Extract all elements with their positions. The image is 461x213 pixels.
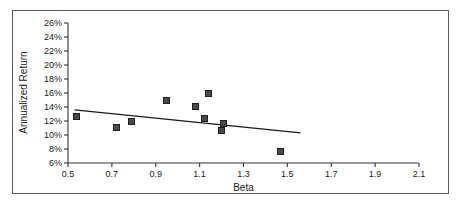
- y-tick-label: 20%: [24, 60, 62, 70]
- y-tick-label: 18%: [24, 74, 62, 84]
- y-axis-title: Annualized Return: [18, 38, 29, 148]
- x-tick-label: 2.1: [403, 169, 435, 179]
- data-point-marker: [201, 115, 208, 122]
- x-tick-label: 1.5: [271, 169, 303, 179]
- data-point-marker: [277, 148, 284, 155]
- x-tick-label: 1.1: [184, 169, 216, 179]
- y-tick-label: 12%: [24, 116, 62, 126]
- x-axis-title: Beta: [13, 182, 461, 193]
- y-tick-label: 6%: [24, 158, 62, 168]
- x-tick-label: 0.5: [52, 169, 84, 179]
- data-point-marker: [73, 113, 80, 120]
- data-point-marker: [205, 90, 212, 97]
- trendline: [75, 110, 301, 133]
- x-tick-label: 1.3: [228, 169, 260, 179]
- y-tick-label: 8%: [24, 144, 62, 154]
- data-point-marker: [128, 118, 135, 125]
- y-tick-label: 26%: [24, 18, 62, 28]
- data-point-marker: [163, 97, 170, 104]
- plot-area: [13, 11, 448, 193]
- x-tick-label: 0.7: [96, 169, 128, 179]
- data-point-marker: [192, 103, 199, 110]
- y-tick-label: 24%: [24, 32, 62, 42]
- y-tick-label: 14%: [24, 102, 62, 112]
- chart-frame: 6%8%10%12%14%16%18%20%22%24%26% 0.50.70.…: [12, 10, 449, 194]
- x-tick-label: 0.9: [140, 169, 172, 179]
- data-point-marker: [113, 124, 120, 131]
- chart-figure: 6%8%10%12%14%16%18%20%22%24%26% 0.50.70.…: [0, 0, 461, 213]
- data-point-marker: [218, 127, 225, 134]
- y-tick-label: 16%: [24, 88, 62, 98]
- axes: [64, 23, 419, 167]
- y-tick-label: 10%: [24, 130, 62, 140]
- data-point-marker: [220, 120, 227, 127]
- x-tick-label: 1.9: [359, 169, 391, 179]
- x-tick-label: 1.7: [315, 169, 347, 179]
- y-tick-label: 22%: [24, 46, 62, 56]
